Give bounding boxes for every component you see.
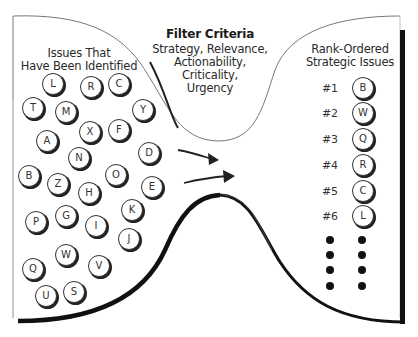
issue-bubble: T xyxy=(22,97,44,119)
issue-bubble: W xyxy=(55,244,77,266)
issue-bubble: E xyxy=(141,176,163,198)
issue-bubble: X xyxy=(79,121,101,143)
issue-bubble: Q xyxy=(22,258,44,280)
rank-number: #6 xyxy=(322,210,338,223)
arrow-bottom-head xyxy=(223,170,235,183)
issue-bubble: Z xyxy=(47,173,69,195)
rank-number: #4 xyxy=(322,159,338,172)
ranked-issue-bubble: L xyxy=(352,205,374,227)
filter-criteria-list: Strategy, Relevance, Actionability, Crit… xyxy=(150,43,270,95)
rank-number: #1 xyxy=(322,82,338,95)
filter-criteria-title: Filter Criteria xyxy=(160,28,260,41)
issue-bubble: I xyxy=(85,215,107,237)
issue-bubble: C xyxy=(108,73,130,95)
continuation-dot-icon xyxy=(326,282,334,290)
issue-bubble: S xyxy=(63,281,85,303)
issue-bubble: V xyxy=(88,255,110,277)
identified-issues-title-line: Have Been Identified xyxy=(14,60,144,73)
funnel-right-shadow xyxy=(400,30,405,324)
issue-bubble: G xyxy=(55,205,77,227)
issue-bubble: O xyxy=(105,164,127,186)
identified-issues-title: Issues That Have Been Identified xyxy=(14,47,144,73)
issue-bubble: F xyxy=(108,119,130,141)
funnel-bottom-right-curve xyxy=(220,195,405,322)
continuation-dot-icon xyxy=(326,266,334,274)
ranked-issue-bubble: W xyxy=(352,102,374,124)
arrow-top-head xyxy=(208,153,219,165)
issue-bubble: P xyxy=(25,211,47,233)
arrow-bottom xyxy=(184,176,228,183)
issue-bubble: U xyxy=(35,285,57,307)
issue-bubble: D xyxy=(138,142,160,164)
issue-bubble: M xyxy=(55,101,77,123)
issue-bubble: N xyxy=(68,147,90,169)
rank-number: #2 xyxy=(322,107,338,120)
ranked-issue-bubble: Q xyxy=(352,128,374,150)
continuation-dot-icon xyxy=(358,251,366,259)
rank-number: #3 xyxy=(322,133,338,146)
rank-ordered-title: Rank-Ordered Strategic Issues xyxy=(305,43,395,69)
continuation-dot-icon xyxy=(326,251,334,259)
continuation-dot-icon xyxy=(358,266,366,274)
arrow-top xyxy=(178,150,212,159)
issue-bubble: Y xyxy=(132,99,154,121)
continuation-dot-icon xyxy=(326,236,334,244)
rank-ordered-title-line: Strategic Issues xyxy=(305,56,395,69)
ranked-issue-bubble: C xyxy=(352,180,374,202)
issue-bubble: L xyxy=(42,73,64,95)
rank-number: #5 xyxy=(322,185,338,198)
issue-bubble: B xyxy=(18,165,40,187)
funnel-bottom-right-thin xyxy=(222,195,272,250)
ranked-issue-bubble: R xyxy=(352,154,374,176)
issue-bubble: H xyxy=(78,182,100,204)
issue-bubble: R xyxy=(80,76,102,98)
issue-bubble: J xyxy=(118,228,140,250)
continuation-dot-icon xyxy=(358,236,366,244)
ranked-issue-bubble: B xyxy=(352,77,374,99)
continuation-dot-icon xyxy=(358,282,366,290)
issue-bubble: A xyxy=(36,130,58,152)
issue-bubble: K xyxy=(121,199,143,221)
filter-criteria-line: Urgency xyxy=(150,82,270,95)
